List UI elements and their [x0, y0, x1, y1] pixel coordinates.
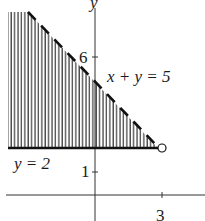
line-label-y-equals-2: y = 2 — [12, 154, 51, 173]
tick-label-6: 6 — [79, 48, 88, 67]
graph-canvas: y 6 x + y = 5 y = 2 1 3 — [0, 0, 205, 221]
open-circle-point — [158, 144, 166, 152]
line-label-x-plus-y: x + y = 5 — [106, 67, 171, 86]
tick-label-3: 3 — [156, 206, 165, 221]
y-axis-label: y — [88, 0, 98, 12]
tick-label-1: 1 — [81, 162, 90, 181]
inequality-graph: y 6 x + y = 5 y = 2 1 3 — [0, 0, 205, 221]
